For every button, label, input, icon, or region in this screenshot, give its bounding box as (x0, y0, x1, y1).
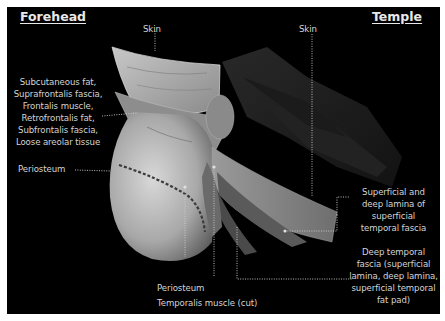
label-temporalis-muscle: Temporalis muscle (cut) (157, 298, 257, 309)
label-skin-left: Skin (143, 24, 161, 35)
label-skin-right: Skin (299, 24, 317, 35)
heading-temple: Temple (372, 9, 422, 24)
leader-periosteum-left (75, 170, 111, 171)
heading-forehead: Forehead (20, 9, 86, 24)
diagram-panel: Forehead Temple Skin Skin Subcutaneous f… (7, 7, 440, 314)
label-deep-temporal-fascia: Deep temporal fascia (superficial lamina… (347, 246, 440, 306)
label-periosteum-bottom: Periosteum (157, 283, 204, 294)
label-superficial-temporal-fascia: Superficial and deep lamina of superfici… (347, 186, 440, 234)
label-forehead-layers: Subcutaneous fat, Suprafrontalis fascia,… (7, 76, 109, 148)
label-periosteum-left: Periosteum (18, 164, 65, 175)
